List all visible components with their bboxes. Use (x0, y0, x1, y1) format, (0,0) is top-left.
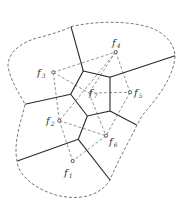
label-f7: f7 (88, 87, 98, 99)
label-f4: f4 (111, 37, 121, 49)
voronoi-edges (17, 27, 175, 180)
label-f1: f1 (63, 167, 73, 179)
site-f6 (104, 134, 107, 137)
site-f3 (52, 71, 55, 74)
label-f6: f6 (108, 136, 118, 148)
label-f2: f2 (45, 115, 55, 127)
site-f5 (128, 91, 131, 94)
site-f4 (114, 50, 117, 53)
sites (52, 50, 132, 162)
site-f1 (71, 159, 74, 162)
voronoi-diagram: f1 f2 f3 f4 f5 f6 f7 (0, 0, 193, 215)
label-f5: f5 (133, 87, 143, 99)
boundary-outline (8, 22, 175, 197)
label-f3: f3 (36, 67, 46, 79)
site-f2 (58, 119, 61, 122)
